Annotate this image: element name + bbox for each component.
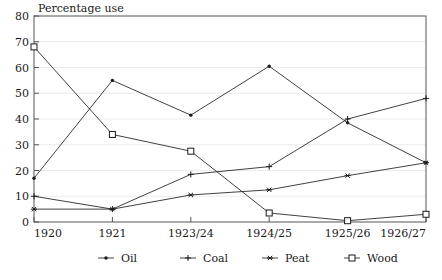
grid-lines bbox=[34, 42, 426, 197]
series-wood-square-marker bbox=[345, 218, 351, 224]
legend-label-peat: Peat bbox=[285, 252, 310, 265]
legend-entry-coal: Coal bbox=[180, 252, 229, 265]
y-tick-label: 20 bbox=[15, 165, 29, 178]
y-tick-label: 30 bbox=[15, 139, 29, 152]
x-tick-label: 1926/27 bbox=[380, 227, 426, 240]
series-wood-square-marker bbox=[31, 44, 37, 50]
series-coal bbox=[31, 95, 429, 212]
series-line-peat bbox=[34, 163, 426, 209]
data-series-group bbox=[31, 44, 429, 224]
x-axis-tick-labels: 192019211923/241924/251925/261926/27 bbox=[34, 227, 426, 240]
legend-label-coal: Coal bbox=[203, 252, 229, 265]
x-tick-label: 1921 bbox=[98, 227, 126, 240]
y-tick-label: 80 bbox=[15, 10, 29, 23]
legend-entry-peat: Peat bbox=[262, 252, 310, 265]
legend-oil-dot-marker bbox=[104, 256, 107, 259]
legend-entry-oil: Oil bbox=[98, 252, 138, 265]
y-tick-label: 10 bbox=[15, 190, 29, 203]
y-tick-label: 70 bbox=[15, 36, 29, 49]
legend-label-oil: Oil bbox=[121, 252, 138, 265]
series-oil-dot-marker bbox=[32, 177, 35, 180]
series-line-oil bbox=[34, 66, 426, 178]
x-tick-label: 1923/24 bbox=[168, 227, 214, 240]
series-wood-square-marker bbox=[188, 148, 194, 154]
legend-entry-wood: Wood bbox=[344, 252, 398, 265]
x-tick-label: 1920 bbox=[34, 227, 62, 240]
line-chart: 01020304050607080 192019211923/241924/25… bbox=[0, 0, 442, 280]
series-oil-dot-marker bbox=[189, 113, 192, 116]
chart-title-text: Percentage use bbox=[38, 2, 124, 15]
y-tick-label: 0 bbox=[22, 216, 29, 229]
series-oil bbox=[32, 65, 427, 180]
x-tick-label: 1924/25 bbox=[246, 227, 292, 240]
y-axis-tick-labels: 01020304050607080 bbox=[15, 10, 29, 229]
series-peat bbox=[31, 161, 429, 212]
y-tick-label: 40 bbox=[15, 113, 29, 126]
legend-label-wood: Wood bbox=[367, 252, 398, 265]
series-wood-square-marker bbox=[109, 131, 115, 137]
legend-wood-square-marker bbox=[349, 255, 355, 261]
series-wood-square-marker bbox=[266, 210, 272, 216]
chart-title: Percentage use bbox=[38, 2, 124, 15]
y-tick-label: 60 bbox=[15, 62, 29, 75]
x-tick-label: 1925/26 bbox=[325, 227, 371, 240]
series-wood-square-marker bbox=[423, 211, 429, 217]
series-oil-dot-marker bbox=[111, 79, 114, 82]
chart-container: 01020304050607080 192019211923/241924/25… bbox=[0, 0, 442, 280]
series-line-wood bbox=[34, 47, 426, 221]
y-tick-label: 50 bbox=[15, 87, 29, 100]
chart-legend: OilCoalPeatWood bbox=[98, 252, 398, 265]
series-oil-dot-marker bbox=[268, 65, 271, 68]
